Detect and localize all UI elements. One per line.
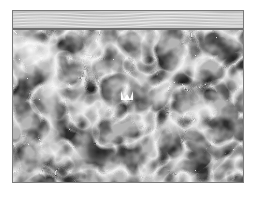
wavy-stripes (13, 11, 243, 28)
image-frame (12, 10, 244, 183)
cellular-texture (13, 30, 243, 183)
striped-band (13, 11, 243, 30)
cloud-texture (13, 30, 243, 183)
